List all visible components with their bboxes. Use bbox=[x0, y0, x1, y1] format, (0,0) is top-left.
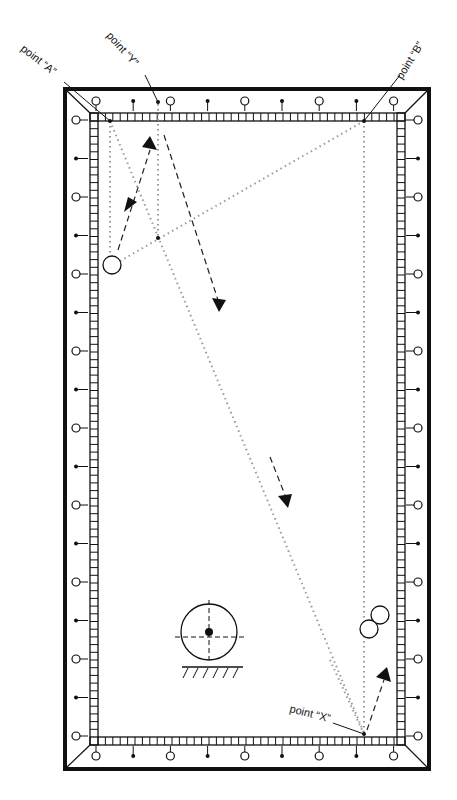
cue-ball bbox=[103, 256, 121, 274]
path-x-fan bbox=[330, 660, 362, 730]
table-outer-frame bbox=[65, 89, 429, 769]
ball-paths bbox=[110, 104, 364, 733]
arrow-down-1 bbox=[212, 298, 226, 312]
label-leaders bbox=[64, 75, 400, 734]
corner-miters bbox=[65, 89, 429, 769]
label-point-a: point “A” bbox=[19, 42, 59, 77]
object-ball-2 bbox=[360, 620, 378, 638]
label-point-b: point “B” bbox=[394, 39, 426, 81]
rolling-ball-symbol bbox=[175, 600, 245, 678]
label-point-y: point “Y” bbox=[105, 29, 142, 68]
arrow-up-2 bbox=[142, 136, 157, 150]
diamond-sights bbox=[72, 97, 422, 760]
path-cue-to-b bbox=[120, 121, 364, 261]
balls bbox=[103, 256, 389, 638]
arrowheads bbox=[124, 136, 391, 682]
cushion-rail bbox=[90, 113, 405, 745]
arrow-down-2 bbox=[278, 494, 292, 508]
billiard-diagram: point “A” point “Y” point “B” point “X” bbox=[0, 0, 457, 800]
arrow-up-3 bbox=[376, 667, 391, 682]
reference-points bbox=[108, 100, 366, 736]
label-point-x: point “X” bbox=[289, 702, 333, 724]
path-a-to-x bbox=[110, 121, 364, 733]
